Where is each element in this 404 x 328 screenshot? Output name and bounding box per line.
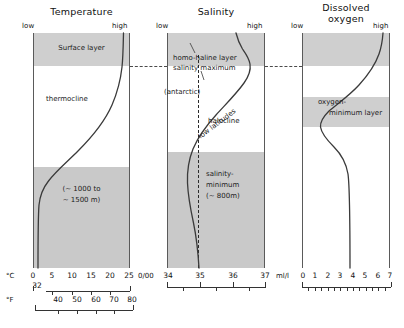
salinity-tick-34: 34	[158, 271, 178, 280]
halocline-label: halocline	[208, 117, 239, 126]
oxygen-panel-title-line1: Dissolved	[302, 2, 390, 13]
temperature-curve	[34, 33, 131, 268]
celsius-tick-5: 5	[42, 271, 62, 280]
salinity-axis-high-label: high	[247, 22, 263, 30]
salinity-maximum-label: salinity maximum	[173, 64, 236, 73]
celsius-axis-unit: °C	[6, 272, 14, 280]
deep-depth-label-line1: (~ 1000 to	[34, 185, 129, 194]
oxygen-tick-mark-5-5	[372, 287, 373, 291]
oxygen-tick-mark-3-5	[347, 287, 348, 291]
oxygen-axis-unit: ml/l	[276, 272, 289, 280]
temperature-panel-title: Temperature	[33, 6, 130, 17]
oxygen-tick-mark-0	[302, 282, 303, 287]
oxygen-tick-mark-2-5	[334, 287, 335, 291]
oxygen-tick-mark-1	[315, 287, 316, 291]
temperature-axis-low-label: low	[22, 22, 34, 30]
oxygen-tick-mark-6-5	[385, 287, 386, 291]
oxygen-tick-mark-4-5	[359, 287, 360, 291]
celsius-tick-25: 25	[119, 271, 139, 280]
salinity-tick-mark-36	[233, 282, 234, 287]
oxygen-axis-high-label: high	[373, 22, 389, 30]
antarctic-label: (antarctic)	[164, 88, 200, 97]
celsius-tick-mark-0	[33, 286, 34, 291]
celsius-axis-rule	[46, 291, 130, 292]
celsius-tick-20: 20	[100, 271, 120, 280]
salinity-tick-37: 37	[255, 271, 275, 280]
salinity-maximum-reference-right	[265, 66, 302, 67]
oxygen-tick-mark-4	[353, 287, 354, 291]
salinity-maximum-reference-left	[130, 66, 167, 67]
oxygen-tick-mark-5	[366, 287, 367, 291]
oxygen-tick-mark-1-5	[321, 287, 322, 291]
oxygen-minimum-line1: oxygen-	[318, 98, 346, 107]
salinity-panel-title: Salinity	[167, 6, 265, 17]
oxygen-tick-mark-7	[391, 282, 392, 287]
oxygen-tick-mark-6	[378, 287, 379, 291]
thermocline-label: thermocline	[46, 95, 88, 104]
oxygen-tick-mark-2	[328, 287, 329, 291]
fahrenheit-tick-mark-32	[35, 305, 36, 310]
fahrenheit-axis-unit: °F	[6, 296, 14, 304]
homo-haline-layer-label: homo-haline layer	[173, 54, 237, 63]
salinity-tick-35: 35	[190, 271, 210, 280]
salinity-panel: homo-haline layer salinity maximum (anta…	[167, 33, 265, 268]
fahrenheit-tick-mark-70	[114, 310, 115, 314]
salinity-tick-mark-35	[200, 282, 201, 287]
celsius-tick-0: 0	[23, 271, 43, 280]
figure-canvas: Temperature low high Surface layer therm…	[0, 0, 404, 328]
fahrenheit-tick-40: 40	[48, 295, 68, 304]
oxygen-axis-low-label: low	[291, 22, 303, 30]
salinity-tick-mark-34-5	[183, 287, 184, 291]
deep-depth-label-line2: ~ 1500 m)	[34, 196, 129, 205]
fahrenheit-tick-mark-60	[96, 310, 97, 314]
salinity-axis-unit: 0/00	[138, 272, 154, 280]
oxygen-tick-7: 7	[380, 271, 400, 280]
temperature-panel: Surface layer thermocline (~ 1000 to ~ 1…	[33, 33, 130, 268]
oxygen-curve	[303, 33, 391, 268]
fahrenheit-tick-50: 50	[67, 295, 87, 304]
salinity-tick-mark-36-5	[249, 287, 250, 291]
fahrenheit-axis-rule	[35, 310, 133, 311]
oxygen-minimum-line2: minimum layer	[329, 109, 382, 118]
salinity-tick-mark-37	[265, 282, 266, 287]
oxygen-tick-mark-0-5	[308, 287, 309, 291]
fahrenheit-tick-32: 32	[27, 281, 47, 290]
surface-layer-label: Surface layer	[34, 44, 129, 53]
salinity-minimum-line3: (~ 800m)	[206, 192, 240, 201]
fahrenheit-tick-60: 60	[86, 295, 106, 304]
oxygen-panel: oxygen- minimum layer	[302, 33, 390, 268]
salinity-minimum-line2: minimum	[206, 181, 239, 190]
fahrenheit-tick-80: 80	[122, 295, 142, 304]
temperature-axis-high-label: high	[112, 22, 128, 30]
oxygen-tick-mark-3	[340, 287, 341, 291]
fahrenheit-tick-70: 70	[104, 295, 124, 304]
fahrenheit-tick-mark-50	[77, 310, 78, 314]
celsius-tick-mark-25	[130, 286, 131, 291]
salinity-tick-mark-35-5	[216, 287, 217, 291]
salinity-tick-mark-34	[167, 282, 168, 287]
fahrenheit-tick-mark-80	[133, 305, 134, 310]
salinity-tick-36: 36	[223, 271, 243, 280]
celsius-tick-10: 10	[62, 271, 82, 280]
fahrenheit-tick-mark-40	[58, 310, 59, 314]
celsius-tick-15: 15	[81, 271, 101, 280]
salinity-axis-low-label: low	[156, 22, 168, 30]
salinity-minimum-line1: salinity-	[206, 170, 234, 179]
